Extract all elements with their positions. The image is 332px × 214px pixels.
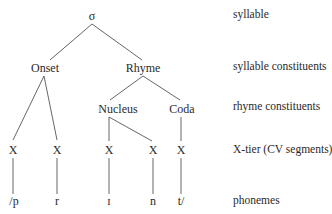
x-slot-2: X bbox=[53, 144, 62, 156]
edge-onset-x2 bbox=[44, 76, 57, 140]
rhyme-node: Rhyme bbox=[126, 62, 161, 74]
x-slot-5: X bbox=[177, 144, 186, 156]
edge-sigma-rhyme bbox=[92, 24, 142, 60]
edge-rhyme-coda bbox=[143, 76, 180, 100]
edge-rhyme-nucleus bbox=[110, 76, 143, 100]
tier-label-phonemes: phonemes bbox=[233, 195, 280, 207]
coda-node: Coda bbox=[169, 103, 194, 115]
tier-label-syllable: syllable bbox=[233, 9, 269, 21]
tier-label-x-tier: X-tier (CV segments) bbox=[233, 144, 332, 156]
edge-nucleus-x4 bbox=[109, 117, 152, 141]
x-slot-4: X bbox=[149, 144, 158, 156]
onset-node: Onset bbox=[31, 62, 59, 74]
x-slot-1: X bbox=[9, 144, 18, 156]
phoneme-4: n bbox=[150, 195, 156, 207]
syllable-node: σ bbox=[89, 10, 95, 22]
phoneme-2: r bbox=[55, 195, 59, 207]
phoneme-5: t/ bbox=[178, 195, 185, 207]
edge-sigma-onset bbox=[50, 24, 92, 60]
tier-label-rhyme-constituents: rhyme constituents bbox=[233, 101, 320, 113]
tier-label-syllable-constituents: syllable constituents bbox=[233, 61, 327, 73]
edge-onset-x1 bbox=[13, 76, 44, 140]
x-slot-3: X bbox=[105, 144, 114, 156]
phoneme-1: /p bbox=[9, 195, 18, 207]
phoneme-3: ɪ bbox=[107, 195, 110, 207]
nucleus-node: Nucleus bbox=[98, 103, 137, 115]
